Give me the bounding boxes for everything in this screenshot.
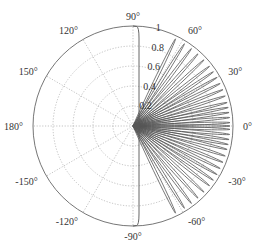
radial-tick-label: 0.6 (148, 61, 161, 72)
radial-tick-label: 0.8 (152, 42, 165, 53)
theta-tick-label: 150° (19, 66, 38, 77)
theta-tick-label: -60° (188, 216, 205, 227)
theta-tick-label: -120° (56, 216, 78, 227)
theta-tick-label: -150° (15, 176, 37, 187)
theta-tick-label: 0° (243, 121, 252, 132)
lobe-curve (133, 126, 220, 169)
radial-tick-label: 0.2 (139, 100, 152, 111)
grid-spoke (46, 126, 133, 176)
theta-tick-label: 120° (59, 25, 78, 36)
theta-tick-label: 180° (4, 121, 23, 132)
polar-chart: 0°30°60°90°120°150°180°-150°-120°-90°-60… (0, 0, 260, 252)
grid-spoke (46, 76, 133, 126)
lobe-curve (133, 66, 209, 126)
theta-tick-label: 30° (228, 66, 242, 77)
lobe-curve (133, 126, 209, 186)
radial-tick-label: 0.4 (143, 81, 156, 92)
grid-spoke (83, 39, 133, 126)
theta-tick-label: -30° (228, 176, 245, 187)
grid-spoke (83, 126, 133, 213)
theta-tick-label: 90° (126, 11, 140, 22)
radial-tick-label: 1 (156, 22, 161, 33)
theta-tick-label: 60° (188, 25, 202, 36)
theta-tick-label: -90° (124, 231, 141, 242)
